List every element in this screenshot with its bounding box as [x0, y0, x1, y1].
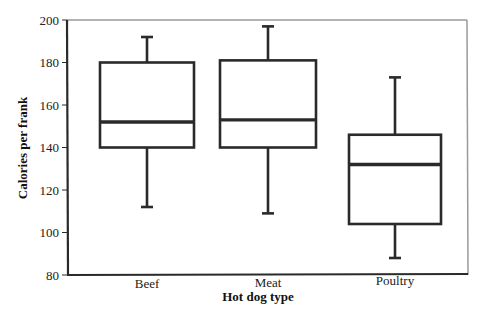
y-tick-label: 140	[40, 140, 60, 155]
y-axis-title: Calories per frank	[15, 96, 30, 199]
box-beef	[100, 37, 194, 207]
box-meat	[220, 26, 316, 213]
y-axis: 80100120140160180200	[40, 13, 68, 283]
iqr-box	[220, 60, 316, 147]
x-axis-title: Hot dog type	[222, 289, 294, 304]
x-category-label: Beef	[135, 276, 160, 291]
y-tick-label: 80	[46, 268, 59, 283]
x-category-label: Poultry	[376, 273, 415, 288]
y-tick-label: 200	[40, 13, 60, 28]
boxes	[100, 26, 441, 258]
x-category-label: Meat	[255, 275, 282, 290]
y-tick-label: 160	[40, 98, 60, 113]
box-poultry	[349, 77, 441, 258]
y-tick-label: 120	[40, 183, 60, 198]
y-tick-label: 180	[40, 55, 60, 70]
box-plot-chart: 80100120140160180200 BeefMeatPoultry Hot…	[0, 0, 481, 318]
y-tick-label: 100	[40, 225, 60, 240]
iqr-box	[100, 63, 194, 148]
frame-right	[467, 20, 468, 275]
y-axis-line	[67, 20, 68, 275]
iqr-box	[349, 135, 441, 224]
